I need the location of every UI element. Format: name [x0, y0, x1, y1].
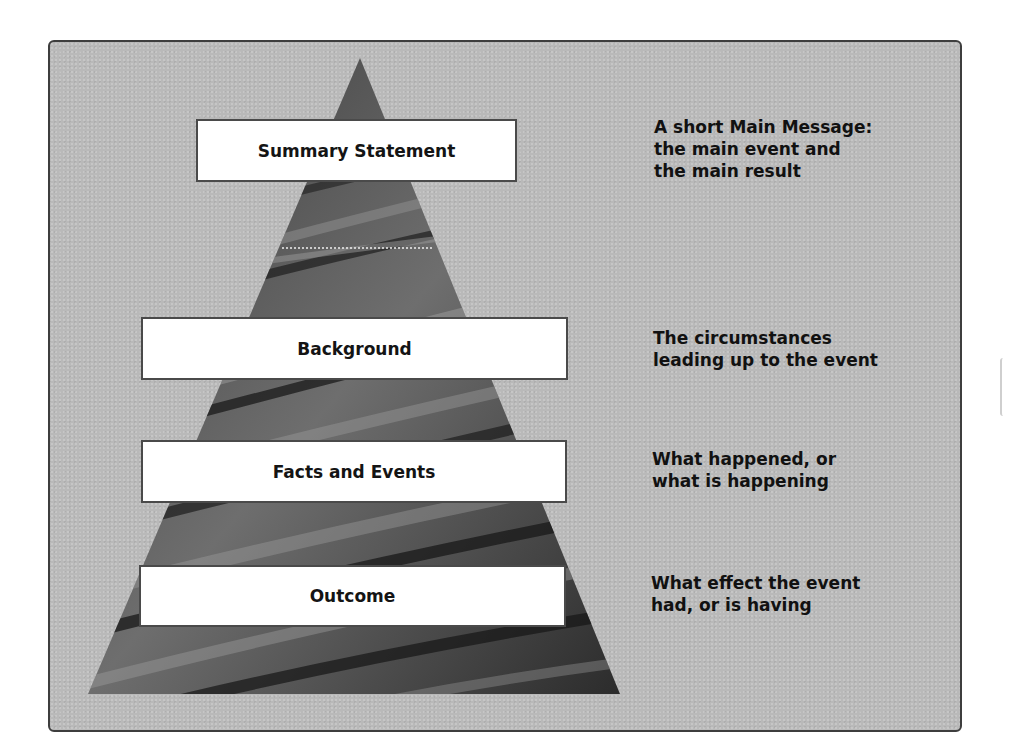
level-description-background: The circumstances leading up to the even… — [653, 327, 878, 371]
level-label: Summary Statement — [258, 141, 456, 161]
level-box-facts-and-events: Facts and Events — [141, 440, 567, 503]
level-description-facts-and-events: What happened, or what is happening — [652, 448, 836, 492]
level-box-summary-statement: Summary Statement — [196, 119, 517, 182]
level-description-summary-statement: A short Main Message: the main event and… — [654, 116, 872, 182]
level-box-outcome: Outcome — [139, 565, 566, 627]
level-label: Background — [297, 339, 411, 359]
page-edge-mark — [1000, 358, 1006, 416]
level-label: Facts and Events — [273, 462, 436, 482]
level-box-background: Background — [141, 317, 568, 380]
level-label: Outcome — [310, 586, 396, 606]
level-description-outcome: What effect the event had, or is having — [651, 572, 860, 616]
